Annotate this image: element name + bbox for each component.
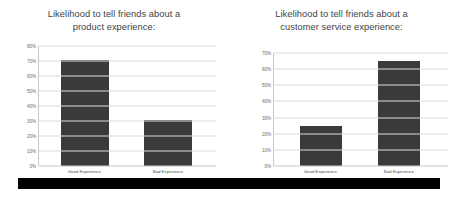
x-axis-customer-service-experience: Good ExperienceBad Experience (273, 166, 448, 178)
chart-title-product-experience: Likelihood to tell friends about a produ… (0, 8, 228, 33)
bottom-black-strip (18, 178, 440, 189)
y-tick-label: 60% (27, 74, 36, 79)
y-tick-label: 20% (27, 134, 36, 139)
y-tick-label: 70% (27, 59, 36, 64)
x-tick-label: Bad Experience (384, 169, 414, 174)
chart-title-line-2: product experience: (0, 21, 228, 34)
y-tick-label: 80% (27, 44, 36, 49)
x-tick-label: Bad Experience (153, 169, 183, 174)
x-tick-label: Good Experience (68, 169, 101, 174)
y-tick-label: 10% (262, 147, 271, 152)
gridline (274, 85, 448, 86)
y-tick-label: 70% (262, 51, 271, 56)
plot-customer-service-experience: 0%10%20%30%40%50%60%70% Good ExperienceB… (253, 53, 448, 166)
chart-panel-customer-service-experience: Likelihood to tell friends about a custo… (228, 0, 455, 190)
x-tick-label: Good Experience (304, 169, 337, 174)
gridline (39, 46, 216, 47)
gridline (39, 76, 216, 77)
gridline (39, 136, 216, 137)
gridline (274, 53, 448, 54)
chart-title-line-2: customer service experience: (228, 21, 455, 34)
gridline (39, 91, 216, 92)
y-tick-label: 50% (27, 89, 36, 94)
y-tick-label: 20% (262, 131, 271, 136)
slide-canvas: Likelihood to tell friends about a produ… (0, 0, 455, 197)
bar (300, 126, 342, 166)
y-tick-label: 10% (27, 149, 36, 154)
plot-product-experience: 0%10%20%30%40%50%60%70%80% Good Experien… (18, 46, 216, 166)
y-tick-label: 30% (262, 115, 271, 120)
gridline (39, 61, 216, 62)
gridline (274, 117, 448, 118)
y-axis-customer-service-experience: 0%10%20%30%40%50%60%70% (253, 53, 273, 166)
chart-panel-product-experience: Likelihood to tell friends about a produ… (0, 0, 228, 190)
y-tick-label: 40% (262, 99, 271, 104)
gridline (274, 101, 448, 102)
gridline (274, 149, 448, 150)
y-axis-product-experience: 0%10%20%30%40%50%60%70%80% (18, 46, 38, 166)
y-tick-label: 60% (262, 67, 271, 72)
chart-title-line-1: Likelihood to tell friends about a (228, 8, 455, 21)
gridline (274, 133, 448, 134)
gridline (274, 69, 448, 70)
gridline (39, 121, 216, 122)
bar (144, 120, 192, 167)
y-tick-label: 0% (265, 164, 271, 169)
gridline (39, 106, 216, 107)
chart-title-line-1: Likelihood to tell friends about a (0, 8, 228, 21)
y-tick-label: 0% (30, 164, 36, 169)
y-tick-label: 40% (27, 104, 36, 109)
plot-area-product-experience (38, 46, 216, 166)
gridline (39, 151, 216, 152)
plot-area-customer-service-experience (273, 53, 448, 166)
x-axis-product-experience: Good ExperienceBad Experience (38, 166, 216, 178)
y-tick-label: 50% (262, 83, 271, 88)
y-tick-label: 30% (27, 119, 36, 124)
chart-title-customer-service-experience: Likelihood to tell friends about a custo… (228, 8, 455, 33)
